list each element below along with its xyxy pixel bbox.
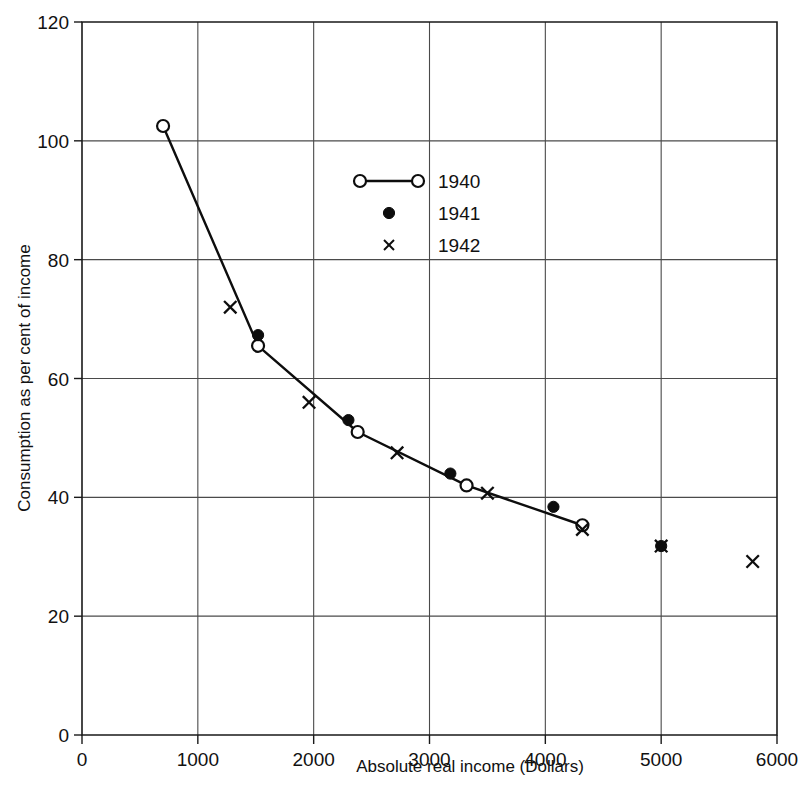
marker-filled-circle-1941-0 [252, 330, 263, 341]
marker-open-circle-1940-1 [252, 340, 264, 352]
x-tick-label: 2000 [293, 749, 335, 770]
y-tick-label: 120 [37, 12, 69, 33]
y-tick-label: 60 [48, 369, 69, 390]
y-axis-title: Consumption as per cent of income [15, 244, 34, 511]
y-tick-label: 80 [48, 250, 69, 271]
marker-filled-circle-1941-2 [445, 468, 456, 479]
x-tick-label: 1000 [177, 749, 219, 770]
legend-label-1940: 1940 [438, 171, 480, 192]
marker-open-circle-1940-0 [157, 120, 169, 132]
x-tick-label: 0 [77, 749, 88, 770]
legend-label-1941: 1941 [438, 203, 480, 224]
marker-filled-circle-1941-3 [548, 501, 559, 512]
marker-open-circle-1940-2 [352, 426, 364, 438]
consumption-income-chart: 0204060801001200100020003000400050006000… [0, 0, 810, 800]
marker-open-circle-1940-3 [461, 479, 473, 491]
y-tick-label: 40 [48, 487, 69, 508]
marker-filled-circle-1941-1 [343, 414, 354, 425]
y-tick-label: 100 [37, 131, 69, 152]
chart-background [0, 0, 810, 800]
chart-canvas: 0204060801001200100020003000400050006000… [0, 0, 810, 800]
legend-label-1942: 1942 [438, 235, 480, 256]
x-axis-title: Absolute real income (Dollars) [356, 757, 584, 776]
x-tick-label: 6000 [756, 749, 798, 770]
x-tick-label: 5000 [640, 749, 682, 770]
y-tick-label: 0 [58, 725, 69, 746]
marker-filled-circle-legend-1941 [383, 207, 394, 218]
marker-open-circle-legend-1940-b [412, 175, 424, 187]
marker-open-circle-legend-1940-a [354, 175, 366, 187]
y-tick-label: 20 [48, 606, 69, 627]
